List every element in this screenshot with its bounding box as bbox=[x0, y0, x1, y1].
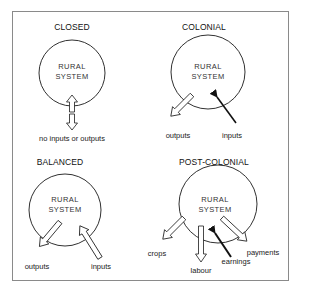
post-colonial-title: POST-COLONIAL bbox=[179, 158, 249, 167]
closed-down-arrow-icon bbox=[67, 114, 78, 130]
closed-panel bbox=[39, 40, 105, 130]
closed-up-arrow-icon bbox=[67, 95, 78, 112]
closed-arrow-label: no inputs or outputs bbox=[39, 135, 105, 143]
post-colonial-payments-arrow-icon bbox=[218, 214, 250, 245]
post-colonial-system-label-line1: RURAL bbox=[201, 196, 228, 204]
post-colonial-labour-arrow-icon bbox=[196, 226, 207, 262]
balanced-system-label-line2: SYSTEM bbox=[48, 206, 81, 214]
colonial-inputs-label: inputs bbox=[222, 132, 242, 140]
closed-system-label-line1: RURAL bbox=[58, 63, 85, 71]
post-colonial-crops-label: crops bbox=[148, 250, 166, 258]
colonial-outputs-label: outputs bbox=[166, 132, 191, 140]
balanced-panel bbox=[29, 174, 105, 261]
colonial-title: COLONIAL bbox=[182, 23, 226, 32]
post-colonial-rural-system-circle bbox=[179, 165, 257, 243]
balanced-title: BALANCED bbox=[37, 158, 84, 167]
post-colonial-earnings-arrow-icon bbox=[215, 233, 231, 257]
balanced-inputs-label: inputs bbox=[91, 263, 111, 271]
post-colonial-system-label-line2: SYSTEM bbox=[198, 206, 231, 214]
colonial-system-label-line2: SYSTEM bbox=[191, 73, 224, 81]
closed-title: CLOSED bbox=[54, 23, 90, 32]
colonial-system-label-line1: RURAL bbox=[194, 63, 221, 71]
colonial-inputs-arrow-icon bbox=[217, 97, 236, 123]
post-colonial-payments-label: payments bbox=[247, 249, 280, 257]
balanced-outputs-label: outputs bbox=[25, 263, 50, 271]
post-colonial-earnings-label: earnings bbox=[222, 258, 251, 266]
closed-system-label-line2: SYSTEM bbox=[55, 73, 88, 81]
post-colonial-crops-arrow-icon bbox=[159, 214, 188, 243]
balanced-system-label-line1: RURAL bbox=[51, 196, 78, 204]
post-colonial-labour-label: labour bbox=[191, 267, 212, 275]
balanced-inputs-arrow-icon bbox=[75, 223, 104, 261]
